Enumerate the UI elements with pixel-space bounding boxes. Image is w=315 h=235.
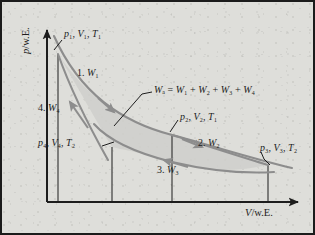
- x-axis-label: V/w.E.: [245, 208, 273, 219]
- figure-panel: p/w.E. V/w.E. p₁, V₁, T₁ p₂, V₂, T₁ p₃, …: [0, 0, 315, 235]
- step-label-w4: 4. W₄: [38, 103, 60, 113]
- y-axis-label: p/w.E.: [21, 27, 32, 54]
- state-label-2: p₂, V₂, T₁: [180, 112, 217, 122]
- state-label-4: p₄, V₄, T₂: [38, 138, 75, 148]
- leader-line-p2: [170, 120, 178, 132]
- state-label-1: p₁, V₁, T₁: [64, 29, 101, 39]
- step-label-w2: 2. W₂: [198, 138, 220, 148]
- total-work-equation: Wₐ = W₁ + W₂ + W₃ + W₄: [154, 85, 255, 95]
- state-label-3: p₃, V₃, T₂: [260, 143, 297, 153]
- pv-diagram-canvas: [2, 2, 315, 235]
- step-label-w3: 3. W₃: [157, 165, 179, 175]
- step-label-w1: 1. W₁: [77, 68, 99, 78]
